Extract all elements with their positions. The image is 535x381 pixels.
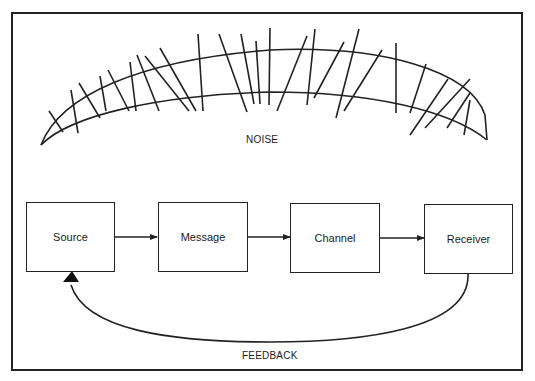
node-channel-label: Channel	[315, 232, 356, 244]
noise-outer-arc	[41, 49, 487, 145]
noise-band	[41, 49, 487, 145]
node-source[interactable]: Source	[26, 202, 115, 272]
diagram-canvas	[0, 0, 535, 381]
node-message[interactable]: Message	[158, 202, 248, 272]
feedback-loop	[63, 271, 468, 342]
node-source-label: Source	[53, 231, 88, 243]
feedback-curve	[71, 274, 468, 342]
node-receiver[interactable]: Receiver	[424, 204, 513, 274]
feedback-arrowhead-icon	[63, 271, 79, 282]
node-channel[interactable]: Channel	[290, 203, 380, 273]
noise-label: NOISE	[246, 134, 278, 145]
noise-hatching	[49, 28, 470, 135]
feedback-label: FEEDBACK	[242, 350, 298, 361]
node-message-label: Message	[181, 231, 226, 243]
node-receiver-label: Receiver	[447, 233, 490, 245]
